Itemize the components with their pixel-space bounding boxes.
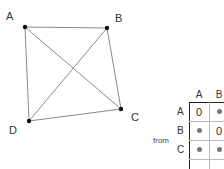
cell-c-a [189, 140, 209, 159]
node-a [23, 25, 27, 29]
cell-a-b [209, 102, 224, 121]
row-axis-label: from [153, 137, 169, 145]
col-header-a: A [189, 90, 209, 100]
node-label-c: C [131, 112, 139, 123]
row-header-b: B [177, 126, 184, 136]
edge-b-d [29, 28, 107, 121]
edge-a-b [25, 27, 107, 28]
node-label-d: D [9, 125, 17, 136]
cell-value: 0 [196, 106, 202, 118]
cell-a-a: 0 [189, 102, 209, 121]
node-b [105, 26, 109, 30]
node-label-b: B [115, 13, 122, 24]
cell-b-a [189, 121, 209, 140]
row-header-a: A [177, 107, 184, 117]
col-header-b: B [209, 90, 224, 100]
node-c [119, 107, 123, 111]
edge-b-c [107, 28, 121, 109]
node-d [27, 119, 31, 123]
row-header-c: C [177, 145, 184, 155]
dot-icon [217, 109, 222, 114]
cell-b-b: 0 [209, 121, 224, 140]
dot-icon [197, 128, 202, 133]
edge-d-a [25, 27, 29, 121]
dot-icon [217, 147, 222, 152]
cell-c-b [209, 140, 224, 159]
dot-icon [197, 147, 202, 152]
edge-c-d [29, 109, 121, 121]
node-label-a: A [6, 11, 13, 22]
cell-value: 0 [216, 125, 222, 137]
